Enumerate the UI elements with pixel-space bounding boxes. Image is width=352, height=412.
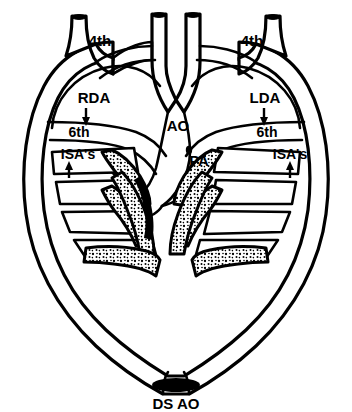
aortic-arch-diagram: 4th 4th RDA LDA 6th 6th ISA's ISA's AO P… [0,0,352,412]
descending-aorta-lumen [152,378,200,392]
diagram-canvas: 4th 4th RDA LDA 6th 6th ISA's ISA's AO P… [0,0,352,412]
label-descending-aorta: DS AO [153,395,200,412]
label-aorta: AO [167,117,190,134]
label-right-dorsal-aorta: RDA [78,89,111,106]
label-fourth-arch-right: 4th [241,32,264,49]
label-sixth-arch-right: 6th [257,124,278,140]
label-sixth-arch-left: 6th [69,124,90,140]
label-isa-left: ISA's [61,146,96,162]
vessel-stump-cap [186,13,200,18]
label-left-dorsal-aorta: LDA [250,89,281,106]
vessel-stump-cap [152,13,166,18]
label-pulmonary-artery: PA [189,152,209,169]
vessel-stump-cap [72,15,86,20]
label-fourth-arch-left: 4th [89,32,112,49]
label-isa-right: ISA's [273,146,308,162]
vessel-stump-cap [266,15,280,20]
